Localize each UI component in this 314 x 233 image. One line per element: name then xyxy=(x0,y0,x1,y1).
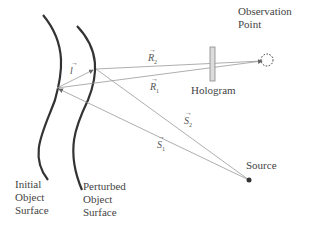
source-label: Source xyxy=(246,159,277,172)
vector-subscript: 2 xyxy=(189,122,192,128)
vector-l-label: →l xyxy=(70,65,73,76)
vector-s1-label: →S1 xyxy=(157,139,165,152)
perturbed-surface-curve xyxy=(73,26,95,190)
ray-s1 xyxy=(59,89,249,180)
vector-subscript: 1 xyxy=(162,146,165,152)
label-line: Initial xyxy=(15,178,49,191)
label-line: Surface xyxy=(83,206,126,219)
vector-arrow: → xyxy=(71,59,78,67)
hologram-label: Hologram xyxy=(191,84,236,97)
vector-subscript: 2 xyxy=(154,59,157,65)
initial-surface-label: Initial Object Surface xyxy=(15,178,49,217)
vector-arrow: → xyxy=(158,133,165,141)
ray-r2 xyxy=(96,61,262,69)
label-line: Object xyxy=(15,191,49,204)
vector-r2-label: →R2 xyxy=(148,52,157,65)
label-line: Object xyxy=(83,193,126,206)
vector-arrow: → xyxy=(149,46,156,54)
label-line: Surface xyxy=(15,204,49,217)
source-dot xyxy=(247,178,252,183)
label-line: Point xyxy=(238,18,292,31)
vector-arrow: → xyxy=(185,109,192,117)
label-line: Observation xyxy=(238,5,292,18)
initial-surface-curve xyxy=(38,15,61,180)
vector-subscript: 1 xyxy=(156,88,159,94)
label-line: Perturbed xyxy=(83,180,126,193)
vector-s2-label: →S2 xyxy=(184,115,192,128)
vector-r1-label: →R1 xyxy=(150,81,159,94)
observation-point-marker xyxy=(261,54,273,66)
perturbed-surface-label: Perturbed Object Surface xyxy=(83,180,126,219)
vector-arrow: → xyxy=(151,75,158,83)
hologram-plate xyxy=(210,47,215,81)
observation-point-label: Observation Point xyxy=(238,5,292,31)
